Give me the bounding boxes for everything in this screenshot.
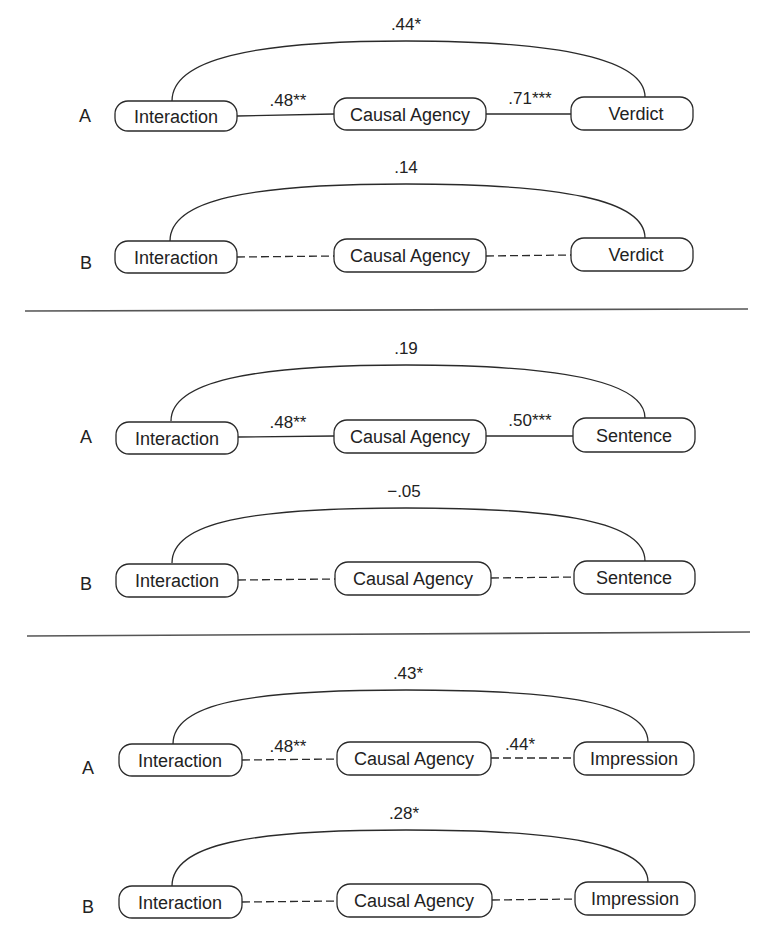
direct-path-arc bbox=[172, 41, 645, 101]
direct-path-coefficient: .19 bbox=[394, 339, 418, 358]
node-interaction: Interaction bbox=[116, 564, 238, 597]
b-path-coefficient: .71*** bbox=[508, 89, 552, 108]
node-causal-agency: Causal Agency bbox=[334, 98, 486, 130]
row-label: B bbox=[80, 253, 92, 273]
direct-path-coefficient: .14 bbox=[394, 158, 418, 177]
node-interaction: Interaction bbox=[119, 744, 242, 776]
node-interaction: Interaction bbox=[115, 101, 237, 131]
node-verdict: Verdict bbox=[571, 238, 693, 271]
row-label: A bbox=[79, 106, 91, 126]
b-path-coefficient: .50*** bbox=[508, 411, 552, 430]
section-divider bbox=[27, 632, 750, 636]
panel-verdict: .44* A .48** .71*** Interaction Causal A… bbox=[79, 15, 693, 273]
a-path-line bbox=[237, 114, 334, 116]
b-path-coefficient: .44* bbox=[505, 735, 536, 754]
node-impression: Impression bbox=[575, 882, 695, 915]
direct-path-coefficient: −.05 bbox=[387, 482, 421, 501]
svg-text:Interaction: Interaction bbox=[134, 248, 218, 268]
panel-sentence: .19 A .48** .50*** Interaction Causal Ag… bbox=[80, 339, 695, 597]
svg-text:Impression: Impression bbox=[590, 749, 678, 769]
b-path-line bbox=[492, 899, 575, 900]
a-path-coefficient: .48** bbox=[270, 413, 307, 432]
svg-text:Causal Agency: Causal Agency bbox=[350, 246, 470, 266]
a-path-line bbox=[238, 436, 334, 437]
a-path-coefficient: .48** bbox=[270, 737, 307, 756]
direct-path-coefficient: .43* bbox=[393, 664, 424, 683]
a-path-line bbox=[238, 579, 335, 580]
panel-verdict-row-a: .44* A .48** .71*** Interaction Causal A… bbox=[79, 15, 693, 131]
row-label: B bbox=[80, 574, 92, 594]
node-sentence: Sentence bbox=[574, 561, 695, 594]
svg-text:Impression: Impression bbox=[591, 889, 679, 909]
panel-verdict-row-b: .14 B Interaction Causal Agency Verdict bbox=[80, 158, 693, 273]
b-path-line bbox=[491, 577, 574, 578]
node-causal-agency: Causal Agency bbox=[337, 884, 492, 917]
svg-text:Verdict: Verdict bbox=[608, 104, 663, 124]
svg-text:Interaction: Interaction bbox=[134, 107, 218, 127]
panel-impression-row-b: .28* B Interaction Causal Agency Impress… bbox=[82, 804, 695, 918]
svg-text:Verdict: Verdict bbox=[608, 245, 663, 265]
node-causal-agency: Causal Agency bbox=[337, 742, 491, 775]
row-label: B bbox=[82, 897, 94, 917]
panel-impression: .43* A .48** .44* Interaction Causal Age… bbox=[82, 664, 695, 918]
b-path-line bbox=[486, 255, 571, 256]
node-causal-agency: Causal Agency bbox=[334, 239, 486, 272]
direct-path-coefficient: .28* bbox=[389, 804, 420, 823]
direct-path-arc bbox=[170, 184, 645, 241]
panel-impression-row-a: .43* A .48** .44* Interaction Causal Age… bbox=[82, 664, 694, 778]
row-label: A bbox=[82, 758, 94, 778]
node-impression: Impression bbox=[574, 742, 694, 775]
svg-text:Interaction: Interaction bbox=[135, 429, 219, 449]
section-divider bbox=[25, 309, 748, 311]
node-causal-agency: Causal Agency bbox=[335, 562, 491, 595]
svg-text:Interaction: Interaction bbox=[138, 893, 222, 913]
svg-text:Causal Agency: Causal Agency bbox=[354, 749, 474, 769]
mediation-diagram: .44* A .48** .71*** Interaction Causal A… bbox=[0, 0, 764, 936]
a-path-line bbox=[237, 256, 334, 257]
node-verdict: Verdict bbox=[571, 97, 693, 130]
node-sentence: Sentence bbox=[573, 418, 695, 452]
node-interaction: Interaction bbox=[115, 241, 237, 273]
svg-text:Causal Agency: Causal Agency bbox=[354, 891, 474, 911]
node-interaction: Interaction bbox=[119, 886, 242, 918]
row-label: A bbox=[80, 427, 92, 447]
svg-text:Interaction: Interaction bbox=[138, 751, 222, 771]
node-interaction: Interaction bbox=[116, 422, 238, 454]
svg-text:Causal Agency: Causal Agency bbox=[350, 427, 470, 447]
panel-sentence-row-a: .19 A .48** .50*** Interaction Causal Ag… bbox=[80, 339, 695, 454]
a-path-line bbox=[242, 759, 337, 760]
direct-path-arc bbox=[171, 365, 645, 421]
svg-text:Causal Agency: Causal Agency bbox=[353, 569, 473, 589]
svg-text:Sentence: Sentence bbox=[596, 426, 672, 446]
a-path-coefficient: .48** bbox=[270, 91, 307, 110]
direct-path-coefficient: .44* bbox=[391, 15, 422, 34]
direct-path-arc bbox=[173, 690, 648, 744]
a-path-line bbox=[242, 901, 337, 902]
svg-text:Sentence: Sentence bbox=[596, 568, 672, 588]
svg-text:Causal Agency: Causal Agency bbox=[350, 105, 470, 125]
panel-sentence-row-b: −.05 B Interaction Causal Agency Sentenc… bbox=[80, 482, 695, 597]
direct-path-arc bbox=[172, 508, 645, 563]
svg-text:Interaction: Interaction bbox=[135, 571, 219, 591]
node-causal-agency: Causal Agency bbox=[334, 420, 486, 453]
direct-path-arc bbox=[172, 830, 648, 886]
